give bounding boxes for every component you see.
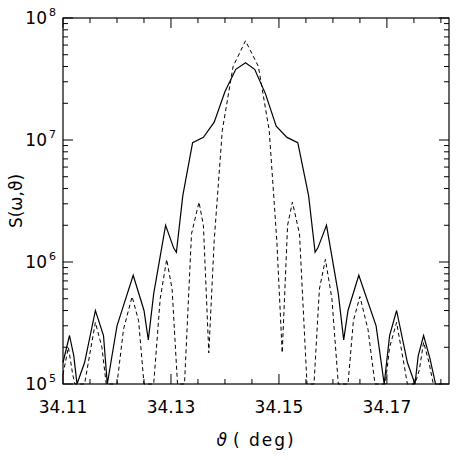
x-axis-title: ϑ( deg)	[216, 430, 295, 450]
y-tick-labels: 105106107108	[25, 6, 56, 394]
series-dashed-line	[63, 41, 433, 384]
y-tick-exponent: 6	[49, 250, 56, 263]
x-tick-labels: 34.1134.1334.1534.17	[39, 397, 412, 417]
chart-canvas: 105106107108 34.1134.1334.1534.17 S(ω,ϑ)…	[0, 0, 467, 460]
y-tick-exponent: 5	[49, 372, 56, 385]
x-tick-label: 34.15	[255, 397, 304, 417]
y-tick-exponent: 7	[49, 128, 56, 141]
y-axis-title: S(ω,ϑ)	[6, 174, 26, 228]
x-axis-title-symbol: ϑ	[216, 430, 227, 450]
y-tick-label: 10	[25, 252, 47, 272]
y-tick-exponent: 8	[49, 6, 56, 19]
x-tick-label: 34.17	[363, 397, 412, 417]
y-tick-label: 10	[25, 374, 47, 394]
x-tick-label: 34.13	[147, 397, 196, 417]
series-layer	[63, 41, 441, 384]
x-tick-label: 34.11	[39, 397, 88, 417]
y-tick-label: 10	[25, 130, 47, 150]
x-axis-title-unit: ( deg)	[233, 430, 296, 450]
series-solid-line	[63, 63, 441, 384]
y-tick-label: 10	[25, 8, 47, 28]
